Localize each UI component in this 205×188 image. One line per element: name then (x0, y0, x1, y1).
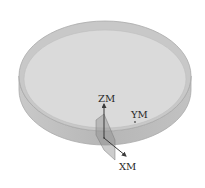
z-axis-label: ZM (98, 93, 115, 104)
disc-top-face (19, 21, 191, 131)
y-axis-label: YM (130, 109, 148, 120)
diagram-canvas: ZM YM XM (0, 0, 205, 188)
origin-point (103, 137, 105, 139)
y-axis-tip (134, 121, 136, 123)
disc-inner-rim (24, 30, 186, 128)
x-axis-label: XM (119, 161, 136, 172)
disc-diagram: ZM YM XM (0, 0, 205, 188)
